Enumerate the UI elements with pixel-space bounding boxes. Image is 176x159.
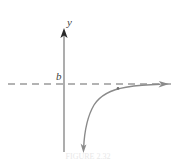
asymptote-label: b xyxy=(56,70,62,82)
curve-marker-point xyxy=(117,87,120,90)
curve-path xyxy=(84,84,160,148)
figure-caption: FIGURE 2.32 xyxy=(0,152,176,159)
math-graph-svg: y b xyxy=(0,0,176,159)
y-axis-label: y xyxy=(66,16,72,28)
figure-container: y b FIGURE 2.32 xyxy=(0,0,176,159)
